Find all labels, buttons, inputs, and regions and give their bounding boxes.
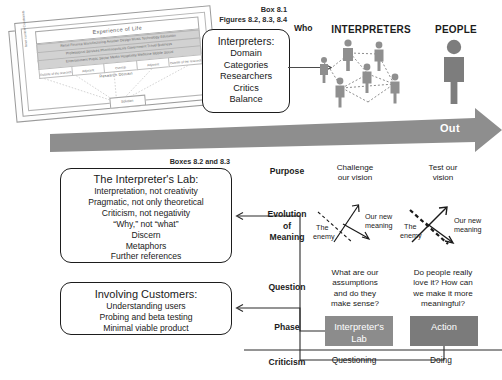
customers-box-item: Minimal viable product bbox=[61, 323, 231, 334]
interpreters-lab-box: The Interpreter's Lab: Interpretation, n… bbox=[60, 168, 232, 263]
box-8-1-caption: Box 8.1 Figures 8.2, 8.3, 8.4 bbox=[195, 5, 287, 25]
evolution-middle-diagram: The enemy Our new meaning bbox=[312, 196, 404, 258]
card-side-label: Inner context Constraints bbox=[21, 13, 28, 47]
new-meaning-label-line: Our new bbox=[365, 212, 393, 221]
interpreters-box-item: Balance bbox=[203, 94, 289, 106]
lab-box-item: “Why,” not “what” bbox=[61, 219, 231, 230]
people-header: PEOPLE bbox=[425, 24, 487, 35]
interpreters-box-item: Critics bbox=[203, 83, 289, 95]
interpreters-box-item: Categories bbox=[203, 60, 289, 72]
out-label: Out bbox=[440, 122, 460, 134]
cell-line: we make it more bbox=[400, 289, 486, 299]
phase-action-box: Action bbox=[410, 316, 478, 346]
lab-box-item: Criticism, not negativity bbox=[61, 208, 231, 219]
boxes-8-2-8-3-caption: Boxes 8.2 and 8.3 bbox=[120, 157, 230, 166]
criticism-right-cell: Doing bbox=[400, 355, 482, 365]
enemy-label-line: The bbox=[404, 222, 416, 231]
cell-line: and do they bbox=[314, 289, 396, 299]
lab-box-item: Further references bbox=[61, 251, 231, 262]
new-meaning-label-line: meaning bbox=[454, 225, 482, 234]
row-label-phase: Phase bbox=[244, 322, 330, 332]
out-arrow-band bbox=[50, 108, 502, 152]
phase-interpreters-lab-box: Interpreter's Lab bbox=[325, 316, 393, 346]
phase-line: Interpreter's bbox=[325, 321, 393, 333]
lab-box-item: Discern bbox=[61, 230, 231, 241]
interpreters-header: INTERPRETERS bbox=[323, 24, 419, 35]
lab-box-item: Metaphors bbox=[61, 241, 231, 252]
enemy-label-line: enemy bbox=[400, 231, 422, 240]
interpreters-box-heading: Interpreters: bbox=[203, 35, 289, 47]
cell-line: assumptions bbox=[314, 278, 396, 288]
cell-line: meaningful? bbox=[400, 299, 486, 309]
caption-line: Figures 8.2, 8.3, 8.4 bbox=[195, 15, 287, 25]
cell-line: Test our bbox=[404, 163, 482, 173]
cell-line: love it? How can bbox=[400, 278, 486, 288]
customers-box-heading: Involving Customers: bbox=[61, 288, 231, 300]
phase-line: Action bbox=[410, 321, 478, 333]
interpreters-box-item: Domain bbox=[203, 48, 289, 60]
enemy-label-line: enemy bbox=[313, 232, 335, 241]
new-meaning-label-line: Our new bbox=[454, 216, 482, 225]
card-inner-frame: Inner context Constraints Experience of … bbox=[21, 12, 213, 111]
cell-line: Challenge bbox=[316, 163, 394, 173]
cell-line: make sense? bbox=[314, 299, 396, 309]
question-right-cell: Do people really love it? How can we mak… bbox=[400, 268, 486, 310]
enemy-label-line: The bbox=[316, 223, 328, 232]
interpreters-box: Interpreters: Domain Categories Research… bbox=[202, 29, 290, 113]
customers-box-item: Probing and beta testing bbox=[61, 312, 231, 323]
evolution-right-diagram: The enemy Our new meaning bbox=[398, 196, 494, 258]
criticism-middle-cell: Questioning bbox=[310, 355, 398, 365]
person-icon bbox=[437, 38, 471, 104]
new-meaning-label-line: meaning bbox=[365, 221, 393, 230]
caption-line: Box 8.1 bbox=[195, 5, 287, 15]
experience-of-life-card: Inner context Constraints Experience of … bbox=[8, 6, 223, 118]
lab-box-heading: The Interpreter's Lab: bbox=[61, 173, 231, 185]
purpose-right-cell: Test our vision bbox=[404, 163, 482, 184]
purpose-middle-cell: Challenge our vision bbox=[316, 163, 394, 184]
interpreters-box-item: Researchers bbox=[203, 71, 289, 83]
cell-line: our vision bbox=[316, 173, 394, 183]
interpreters-network-icon bbox=[316, 36, 426, 108]
phase-line: Lab bbox=[325, 333, 393, 345]
diagram-canvas: Inner context Constraints Experience of … bbox=[0, 0, 502, 380]
cell-line: Do people really bbox=[400, 268, 486, 278]
customers-box-item: Understanding users bbox=[61, 301, 231, 312]
cell-line: What are our bbox=[314, 268, 396, 278]
question-middle-cell: What are our assumptions and do they mak… bbox=[314, 268, 396, 310]
cell-line: vision bbox=[404, 173, 482, 183]
who-label: Who bbox=[294, 23, 313, 33]
card-front: Inner context Constraints Experience of … bbox=[14, 5, 219, 116]
lab-box-item: Interpretation, not creativity bbox=[61, 186, 231, 197]
lab-box-item: Pragmatic, not only theoretical bbox=[61, 197, 231, 208]
involving-customers-box: Involving Customers: Understanding users… bbox=[60, 282, 232, 335]
